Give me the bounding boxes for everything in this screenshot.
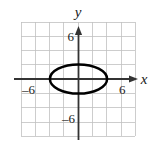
- graph-figure: y x 6 –6 –6 6: [0, 0, 154, 149]
- x-axis-label: x: [140, 71, 148, 87]
- y-axis-tick-label-negative: –6: [61, 111, 76, 126]
- coordinate-plane-svg: y x 6 –6 –6 6: [0, 0, 154, 149]
- y-axis-tick-label-positive: 6: [68, 29, 75, 44]
- y-axis-label: y: [73, 4, 82, 20]
- x-axis-tick-label-positive: 6: [119, 82, 126, 97]
- x-axis-tick-label-negative: –6: [21, 82, 36, 97]
